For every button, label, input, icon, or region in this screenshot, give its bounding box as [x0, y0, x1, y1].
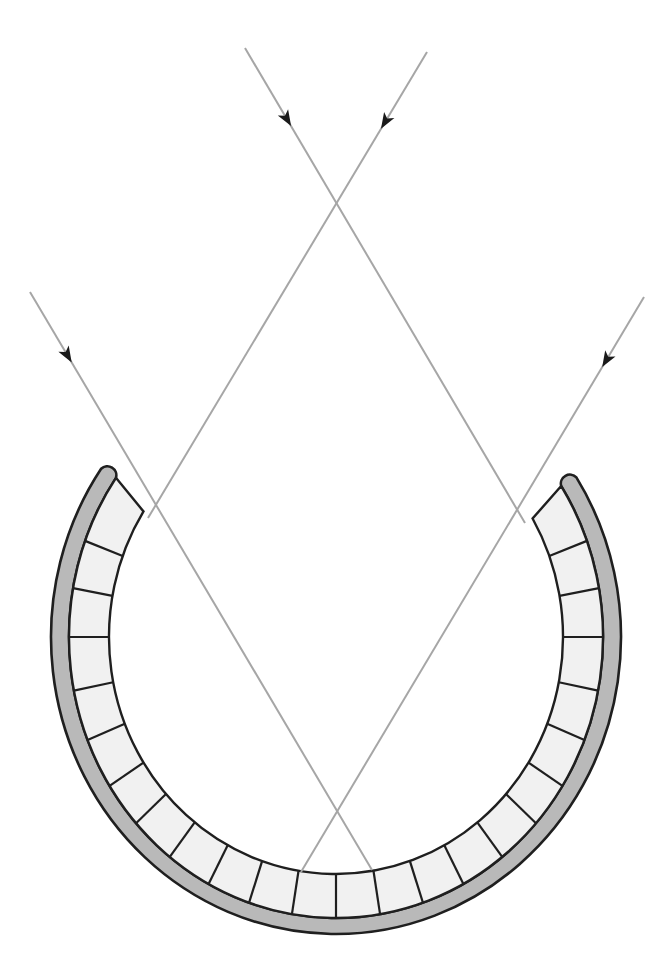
- arrowhead-icon: [58, 346, 71, 363]
- outer-reflector-band: [51, 466, 621, 934]
- segmented-reflector: [51, 466, 621, 934]
- arrowhead-icon: [381, 112, 394, 129]
- arrowhead-icon: [602, 350, 615, 367]
- arrowhead-icon: [278, 109, 291, 126]
- reflector-diagram: [0, 0, 671, 972]
